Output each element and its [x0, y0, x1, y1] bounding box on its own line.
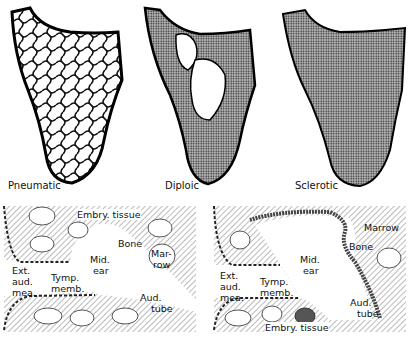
br-label-tymp-1: Tymp. [260, 276, 288, 287]
label-pneumatic: Pneumatic [8, 180, 61, 191]
bl-label-aud-1: Aud. [140, 292, 162, 303]
label-diploic: Diploic [165, 180, 199, 191]
bl-label-marrow-1: Mar- [151, 248, 172, 259]
br-label-embry-tissue: Embry. tissue [265, 322, 329, 333]
br-label-bone: Bone [349, 241, 373, 252]
br-label-ext-1: Ext. [220, 270, 238, 281]
br-label-mid-ear-1: Mid. [300, 254, 320, 265]
bl-label-embry-tissue: Embry. tissue [77, 209, 141, 220]
br-label-marrow: Marrow [364, 222, 399, 233]
pneumatic-bone [12, 8, 122, 183]
br-label-ext-3: mea. [220, 292, 244, 303]
bl-label-mid-ear-1: Mid. [90, 254, 110, 265]
bl-label-tymp-2: memb. [51, 283, 84, 294]
bl-label-aud-2: tube [151, 303, 173, 314]
br-label-tymp-2: memb. [260, 287, 293, 298]
bl-label-ext-2: aud. [12, 276, 33, 287]
bl-label-mid-ear-2: ear [93, 265, 109, 276]
bl-label-ext-3: mea. [12, 287, 36, 298]
bl-label-bone: Bone [118, 238, 142, 249]
bl-label-ext-1: Ext. [12, 265, 30, 276]
bl-label-tymp-1: Tymp. [51, 272, 79, 283]
br-label-aud-1: Aud. [350, 297, 372, 308]
br-label-aud-2: tube [357, 308, 379, 319]
sclerotic-bone [283, 10, 405, 186]
bl-label-marrow-2: row [153, 259, 170, 270]
label-sclerotic: Sclerotic [295, 180, 338, 191]
diploic-bone [145, 8, 255, 184]
br-label-ext-2: aud. [220, 281, 241, 292]
br-label-mid-ear-2: ear [303, 265, 319, 276]
